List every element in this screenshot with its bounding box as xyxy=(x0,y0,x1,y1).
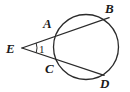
angle-label-1: 1 xyxy=(39,44,45,55)
angle-arc-marker xyxy=(36,43,37,53)
point-label-b: B xyxy=(105,2,114,15)
secant-line-ed xyxy=(22,48,104,75)
point-label-c: C xyxy=(45,62,54,75)
point-label-e: E xyxy=(6,42,15,55)
point-label-a: A xyxy=(43,17,52,30)
geometry-figure: E A B C D 1 xyxy=(0,0,130,92)
point-label-d: D xyxy=(100,77,109,90)
